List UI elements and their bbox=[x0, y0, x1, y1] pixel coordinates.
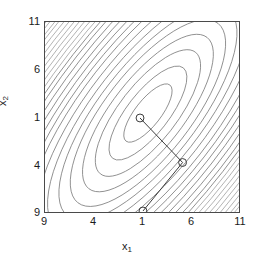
path-marker-1 bbox=[136, 114, 144, 122]
x-tick-label-4: 11 bbox=[220, 216, 254, 227]
x-axis-title: x1 bbox=[0, 240, 254, 254]
x-tick-label-3: 6 bbox=[171, 216, 211, 227]
contour-svg bbox=[45, 22, 239, 212]
corner-hatching bbox=[45, 22, 239, 212]
plot-area bbox=[44, 21, 240, 213]
x-axis-subscript: 1 bbox=[128, 245, 132, 254]
x-tick-label-1: 4 bbox=[73, 216, 113, 227]
y-tick-label-0: 11 bbox=[0, 16, 40, 27]
x-tick-label-0: 9 bbox=[24, 216, 64, 227]
contour-plot-figure: 11 6 1 4 9 9 4 1 6 11 x1 x2 bbox=[0, 0, 254, 267]
contour-lines bbox=[45, 22, 239, 212]
path-marker-3 bbox=[139, 207, 147, 212]
y-axis-title: x2 bbox=[0, 96, 10, 106]
y-tick-label-3: 4 bbox=[0, 160, 40, 171]
path-segment bbox=[140, 118, 183, 163]
x-tick-label-2: 1 bbox=[122, 216, 162, 227]
y-axis-subscript: 2 bbox=[1, 96, 10, 100]
y-tick-label-2: 1 bbox=[0, 112, 40, 123]
y-tick-label-1: 6 bbox=[0, 64, 40, 75]
